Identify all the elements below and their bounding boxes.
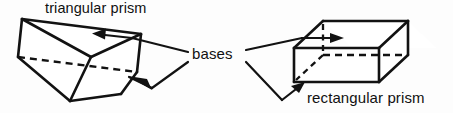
label-triangular-prism: triangular prism [45, 0, 147, 16]
rectangular-prism-top-left-edge [294, 21, 323, 48]
label-bases: bases [192, 45, 233, 62]
label-rectangular-prism: rectangular prism [307, 89, 425, 106]
rectangular-prism [294, 21, 437, 82]
triangular-prism [18, 19, 141, 101]
callout-triangular-lower-base-line [152, 62, 188, 88]
prism-bases-diagram: triangular prism bases rectangular prism [0, 0, 453, 113]
rectangular-prism-top-fill [323, 21, 437, 48]
callout-rectangular-lower-base-line [246, 62, 282, 100]
rectangular-prism-front-fill [294, 48, 379, 82]
